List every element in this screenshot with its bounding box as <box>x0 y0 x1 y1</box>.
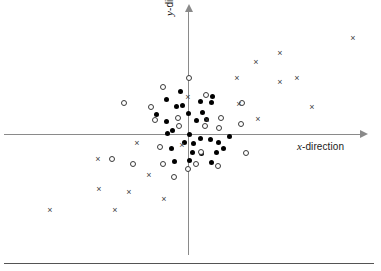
data-point-open-circle <box>203 92 209 98</box>
data-point-filled-dot <box>164 119 169 124</box>
data-point-cross: × <box>254 115 262 123</box>
data-point-cross: × <box>293 74 301 82</box>
data-point-open-circle <box>148 104 154 110</box>
data-point-cross: × <box>94 155 102 163</box>
data-point-filled-dot <box>174 104 179 109</box>
data-point-open-circle <box>215 163 221 169</box>
data-point-filled-dot <box>194 118 199 123</box>
data-point-filled-dot <box>154 112 159 117</box>
data-point-cross: × <box>276 78 284 86</box>
data-point-filled-dot <box>186 111 191 116</box>
data-point-open-circle <box>121 100 127 106</box>
data-point-filled-dot <box>187 132 192 137</box>
y-axis-arrowhead-icon <box>185 4 193 12</box>
data-point-open-circle <box>176 123 182 129</box>
data-point-open-circle <box>157 144 163 150</box>
data-point-filled-dot <box>170 128 175 133</box>
data-point-open-circle <box>186 75 192 81</box>
data-point-cross: × <box>184 93 192 101</box>
data-point-filled-dot <box>210 94 215 99</box>
data-point-filled-dot <box>172 159 177 164</box>
x-axis-arrowhead-icon <box>360 130 368 138</box>
data-point-filled-dot <box>209 100 214 105</box>
data-point-open-circle <box>171 174 177 180</box>
data-point-open-circle <box>193 161 199 167</box>
data-point-filled-dot <box>216 140 221 145</box>
data-point-open-circle <box>130 161 136 167</box>
data-point-filled-dot <box>214 150 219 155</box>
y-axis-label: y-direction <box>163 0 175 16</box>
data-point-cross: × <box>133 139 141 147</box>
data-point-cross: × <box>178 141 186 149</box>
data-point-open-circle <box>243 150 249 156</box>
data-point-filled-dot <box>198 136 203 141</box>
data-point-filled-dot <box>164 97 169 102</box>
data-point-cross: × <box>233 74 241 82</box>
data-point-open-circle <box>152 117 158 123</box>
data-point-cross: × <box>308 103 316 111</box>
data-point-filled-dot <box>187 158 192 163</box>
data-point-cross: × <box>160 195 168 203</box>
data-point-open-circle <box>238 121 244 127</box>
data-point-filled-dot <box>227 134 232 139</box>
data-point-open-circle <box>160 161 166 167</box>
data-point-filled-dot <box>190 150 195 155</box>
data-point-filled-dot <box>169 146 174 151</box>
data-point-cross: × <box>145 171 153 179</box>
data-point-open-circle <box>160 84 166 90</box>
data-point-open-circle <box>218 115 224 121</box>
data-point-open-circle <box>185 166 191 172</box>
y-axis-label-variable: y <box>163 11 175 16</box>
data-point-cross: × <box>252 58 260 66</box>
data-point-cross: × <box>111 206 119 214</box>
data-point-filled-dot <box>209 160 214 165</box>
data-point-cross: × <box>125 188 133 196</box>
data-point-filled-dot <box>200 110 205 115</box>
data-point-filled-dot <box>191 141 196 146</box>
y-axis-label-text: -direction <box>164 0 175 11</box>
x-axis-line <box>4 134 362 135</box>
data-point-cross: × <box>46 206 54 214</box>
data-point-open-circle <box>198 149 204 155</box>
data-point-open-circle <box>109 156 115 162</box>
data-point-filled-dot <box>178 89 183 94</box>
data-point-filled-dot <box>180 103 185 108</box>
data-point-open-circle <box>216 125 222 131</box>
data-point-cross: × <box>276 49 284 57</box>
bottom-divider-rule <box>4 263 374 264</box>
data-point-filled-dot <box>221 146 226 151</box>
data-point-cross: × <box>95 185 103 193</box>
scatter-plot-figure: x-direction y-direction ××××××××××××××××… <box>0 0 381 271</box>
x-axis-label-text: -direction <box>302 141 344 152</box>
data-point-filled-dot <box>198 99 203 104</box>
data-point-cross: × <box>203 116 211 124</box>
data-point-filled-dot <box>208 137 213 142</box>
data-point-cross: × <box>235 100 243 108</box>
data-point-open-circle <box>175 115 181 121</box>
data-point-cross: × <box>349 34 357 42</box>
x-axis-label: x-direction <box>297 140 344 152</box>
data-point-filled-dot <box>165 131 170 136</box>
